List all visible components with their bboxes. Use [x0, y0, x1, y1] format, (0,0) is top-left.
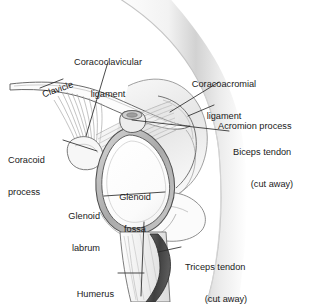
- label-line-1: Biceps tendon: [233, 147, 315, 158]
- label-humerus: Humerus: [50, 268, 114, 308]
- coracoid-process: [67, 137, 103, 170]
- label-line-1: Coracoid: [8, 155, 70, 166]
- label-biceps-tendon: Biceps tendon (cut away): [233, 126, 315, 200]
- label-line-1: Coracoacromial: [168, 79, 280, 90]
- label-line-2: (cut away): [233, 179, 311, 190]
- label-glenoid-fossa: Glenoid fossa: [104, 171, 166, 245]
- label-glenoid-labrum: Glenoid labrum: [38, 190, 100, 264]
- label-line-2: fossa: [104, 224, 166, 235]
- label-line-1: Humerus: [50, 289, 114, 300]
- label-line-2: labrum: [38, 243, 100, 254]
- biceps-tendon-stub: [120, 111, 146, 133]
- label-triceps-tendon: Triceps tendon (cut away): [185, 241, 271, 308]
- label-line-1: Glenoid: [38, 211, 100, 222]
- label-line-1: Triceps tendon: [185, 262, 271, 273]
- label-line-2: (cut away): [185, 294, 267, 305]
- label-line-1: Glenoid: [104, 192, 166, 203]
